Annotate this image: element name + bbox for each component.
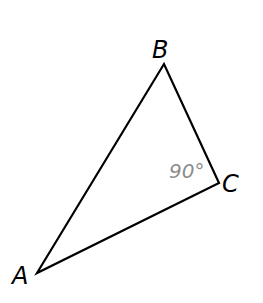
angle-label-c: 90° bbox=[169, 159, 204, 183]
triangle-svg: B C A 90° bbox=[0, 0, 263, 303]
vertex-label-b: B bbox=[152, 36, 168, 64]
triangle-diagram: B C A 90° bbox=[0, 0, 263, 303]
vertex-label-c: C bbox=[222, 170, 239, 198]
vertex-label-a: A bbox=[10, 262, 28, 290]
